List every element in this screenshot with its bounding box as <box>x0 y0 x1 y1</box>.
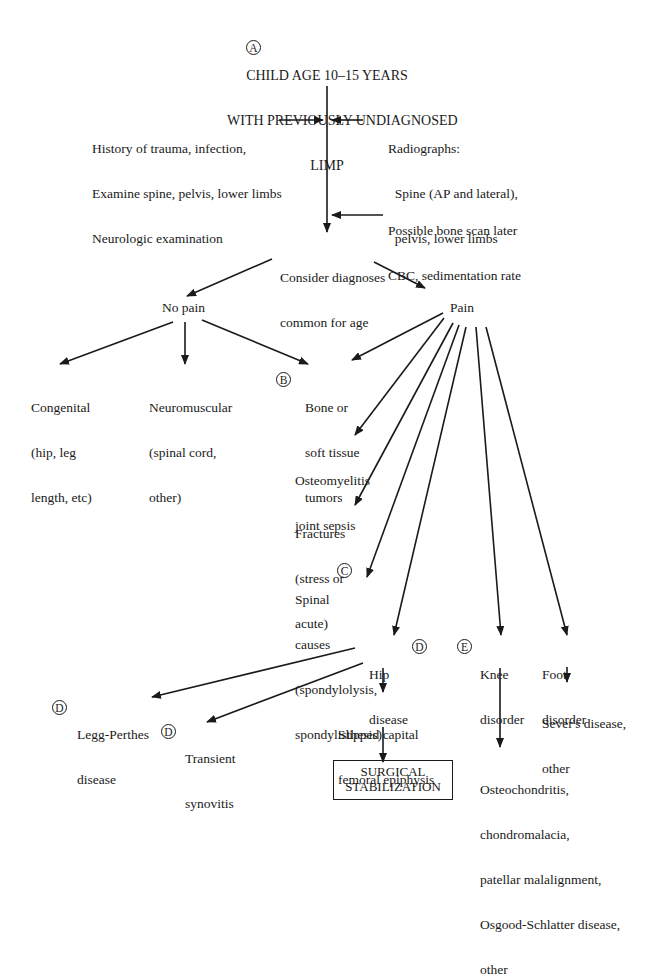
knee-outcome-line-5: other <box>480 962 620 977</box>
examine-line: Examine spine, pelvis, lower limbs <box>92 186 282 201</box>
bone-scan-line: Possible bone scan later <box>388 223 521 238</box>
history-line: History of trauma, infection, <box>92 141 282 156</box>
surgical-line-2: STABILIZATION <box>334 779 452 794</box>
knee-line-1: Knee <box>480 667 524 682</box>
congenital-line-3: length, etc) <box>31 490 92 505</box>
bone-tumors-line-1: Bone or <box>305 400 359 415</box>
neuro-line: Neurologic examination <box>92 231 282 246</box>
surgical-stabilization-box: SURGICAL STABILIZATION <box>333 760 453 800</box>
neuromuscular-line-3: other) <box>149 490 232 505</box>
fractures-line-1: Fractures <box>295 526 345 541</box>
legg-line-2: disease <box>77 772 149 787</box>
consider-line-2: common for age <box>280 315 385 330</box>
consider-diagnoses: Consider diagnoses common for age <box>280 240 385 345</box>
no-pain-node: No pain <box>162 300 205 315</box>
congenital-line-1: Congenital <box>31 400 92 415</box>
osteomyelitis-line-1: Osteomyelitis <box>295 473 370 488</box>
labs-text: Possible bone scan later CBC, sedimentat… <box>388 193 521 298</box>
surgical-line-1: SURGICAL <box>334 764 452 779</box>
severs-line-1: Sever's disease, <box>542 716 626 731</box>
knee-outcome-line-2: chondromalacia, <box>480 827 620 842</box>
consider-line-1: Consider diagnoses <box>280 270 385 285</box>
transient-line-2: synovitis <box>185 796 236 811</box>
badge-d-legg: D <box>52 700 67 715</box>
congenital-line-2: (hip, leg <box>31 445 92 460</box>
cbc-line: CBC, sedimentation rate <box>388 268 521 283</box>
radiographs-line-1: Radiographs: <box>388 141 518 156</box>
neuromuscular-node: Neuromuscular (spinal cord, other) <box>149 370 232 520</box>
neuromuscular-line-2: (spinal cord, <box>149 445 232 460</box>
knee-outcome-line-3: patellar malalignment, <box>480 872 620 887</box>
knee-outcome-line-1: Osteochondritis, <box>480 782 620 797</box>
knee-line-2: disorder <box>480 712 524 727</box>
transient-line-1: Transient <box>185 751 236 766</box>
badge-e: E <box>457 639 472 654</box>
pain-node: Pain <box>450 300 474 315</box>
foot-line-1: Foot <box>542 667 586 682</box>
congenital-node: Congenital (hip, leg length, etc) <box>31 370 92 520</box>
knee-outcome-line-4: Osgood-Schlatter disease, <box>480 917 620 932</box>
history-exam-text: History of trauma, infection, Examine sp… <box>92 111 282 261</box>
hip-line-1: Hip <box>369 667 408 682</box>
badge-d-transient: D <box>161 724 176 739</box>
title-line-1: CHILD AGE 10–15 YEARS <box>227 68 427 83</box>
knee-disorder-node: Knee disorder <box>480 637 524 742</box>
badge-d-hip: D <box>412 639 427 654</box>
legg-perthes-node: Legg-Perthes disease <box>77 697 149 802</box>
transient-synovitis-node: Transient synovitis <box>185 721 236 826</box>
spinal-line-1: Spinal <box>295 592 382 607</box>
knee-outcome-node: Osteochondritis, chondromalacia, patella… <box>480 752 620 978</box>
badge-b: B <box>276 372 291 387</box>
scfe-line-1: Slipped capital <box>338 727 434 742</box>
legg-line-1: Legg-Perthes <box>77 727 149 742</box>
neuromuscular-line-1: Neuromuscular <box>149 400 232 415</box>
